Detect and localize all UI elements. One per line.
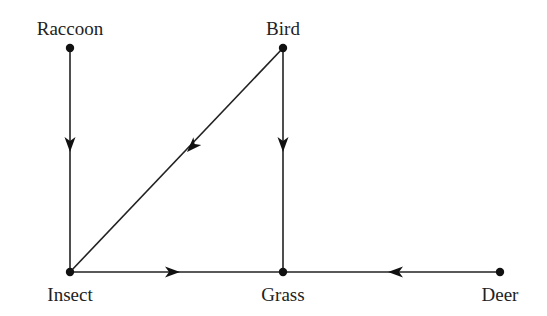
node-grass [279, 268, 287, 276]
node-label-deer: Deer [482, 284, 520, 305]
node-label-raccoon: Raccoon [37, 18, 104, 39]
arrowheads-layer [65, 137, 404, 278]
food-web-diagram: RaccoonBirdInsectGrassDeer [0, 0, 547, 316]
arrowhead-icon [187, 137, 201, 152]
node-label-bird: Bird [266, 18, 300, 39]
edge-bird-to-insect [70, 48, 283, 272]
node-label-insect: Insect [47, 284, 93, 305]
edges-layer [70, 48, 500, 272]
node-raccoon [66, 44, 74, 52]
node-bird [279, 44, 287, 52]
node-label-grass: Grass [261, 284, 304, 305]
node-deer [496, 268, 504, 276]
labels-layer: RaccoonBirdInsectGrassDeer [37, 18, 519, 305]
node-insect [66, 268, 74, 276]
nodes-layer [66, 44, 504, 276]
